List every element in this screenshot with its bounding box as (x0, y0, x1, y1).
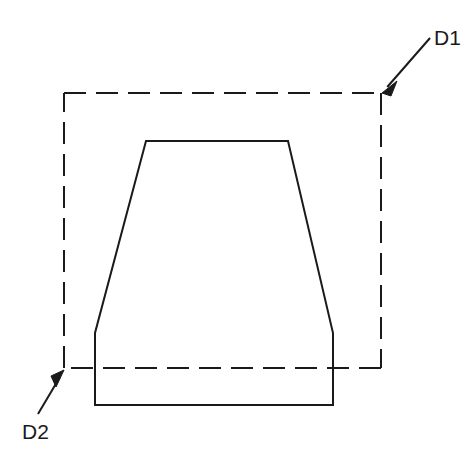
figure-canvas: D1 D2 (0, 0, 472, 464)
d2-label: D2 (22, 420, 49, 443)
d1-label: D1 (434, 26, 461, 49)
technical-drawing-svg: D1 D2 (0, 0, 472, 464)
